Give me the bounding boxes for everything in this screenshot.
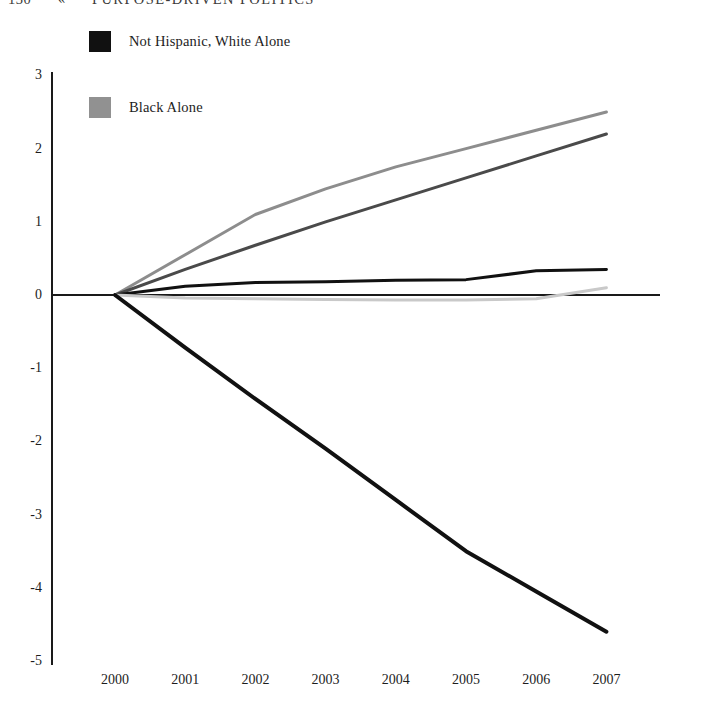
x-tick-label: 2002: [225, 672, 285, 688]
x-tick-label: 2001: [155, 672, 215, 688]
x-tick-label: 2003: [296, 672, 356, 688]
y-tick-label: 3: [2, 67, 42, 83]
x-tick-label: 2004: [366, 672, 426, 688]
axis-group: [52, 72, 660, 665]
series-line-3: [115, 288, 606, 300]
series-line-2: [115, 269, 606, 295]
y-tick-label: -2: [2, 433, 42, 449]
chart-canvas: [0, 0, 701, 723]
y-tick-label: 2: [2, 141, 42, 157]
y-tick-label: 0: [2, 287, 42, 303]
x-tick-label: 2007: [576, 672, 636, 688]
series-line-4: [115, 295, 606, 632]
x-tick-label: 2000: [85, 672, 145, 688]
y-tick-label: -1: [2, 360, 42, 376]
y-tick-label: 1: [2, 214, 42, 230]
y-tick-label: -5: [2, 653, 42, 669]
y-tick-label: -3: [2, 507, 42, 523]
x-tick-label: 2005: [436, 672, 496, 688]
y-tick-label: -4: [2, 580, 42, 596]
x-tick-label: 2006: [506, 672, 566, 688]
line-chart: 3210-1-2-3-4-5 2000200120022003200420052…: [0, 0, 701, 723]
series-group: [115, 112, 606, 632]
